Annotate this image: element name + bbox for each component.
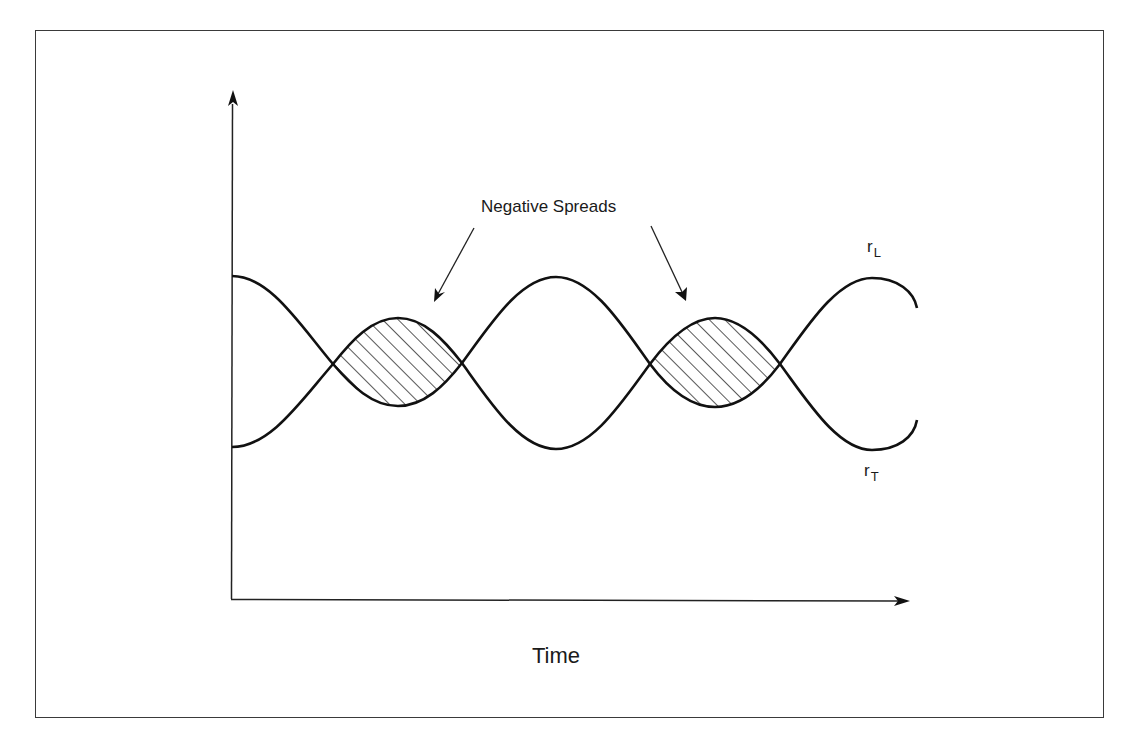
y-axis	[228, 90, 238, 599]
series-label-r-l: rL	[867, 238, 881, 259]
x-axis	[231, 596, 910, 606]
spread-diagram	[0, 0, 1136, 745]
annotation-arrow-left	[434, 228, 474, 302]
x-axis-label: Time	[532, 645, 580, 667]
series-label-r-l-sub: L	[874, 245, 881, 260]
series-label-r-t-sub: T	[871, 469, 879, 484]
annotation-negative-spreads: Negative Spreads	[481, 198, 616, 215]
series-label-r-t-base: r	[864, 461, 870, 480]
series-label-r-l-base: r	[867, 237, 873, 256]
y-axis-arrow-icon	[228, 90, 238, 106]
annotation-arrow-right	[651, 226, 687, 301]
r-t-curve	[232, 318, 917, 450]
series-label-r-t: rT	[864, 462, 879, 483]
r-l-curve	[232, 276, 917, 407]
